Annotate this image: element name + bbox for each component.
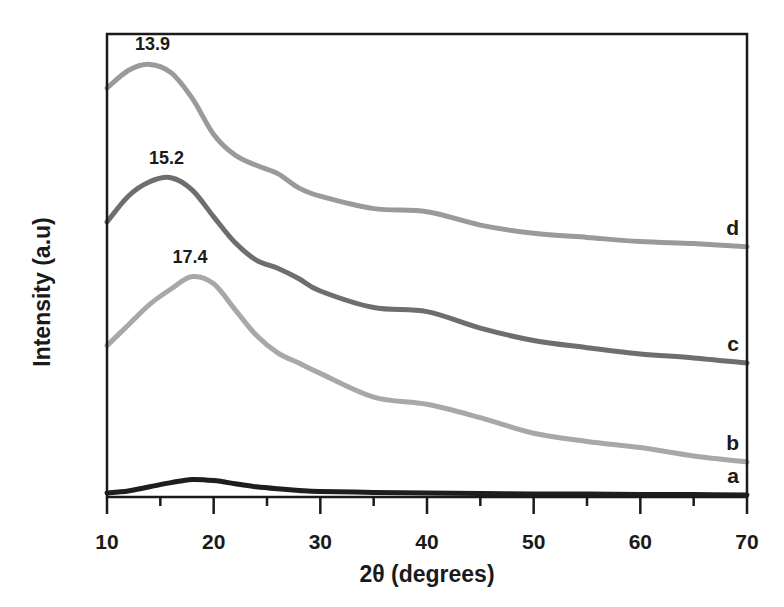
series-labels: abcd — [726, 216, 739, 487]
y-axis-title: Intensity (a.u) — [29, 217, 55, 367]
series-label-b: b — [726, 431, 739, 454]
curve-d — [107, 64, 747, 246]
x-tick-label: 50 — [522, 530, 545, 553]
x-axis-ticks — [107, 497, 747, 514]
curve-b — [107, 276, 747, 462]
series-label-c: c — [727, 332, 739, 355]
xrd-chart: 10203040506070 17.415.213.9 abcd 2θ (deg… — [0, 0, 784, 607]
curve-a — [107, 479, 747, 495]
x-axis-tick-labels: 10203040506070 — [95, 530, 758, 553]
series-label-d: d — [726, 216, 739, 239]
x-tick-label: 10 — [95, 530, 118, 553]
peak-label-c: 15.2 — [149, 148, 184, 168]
peak-label-b: 17.4 — [172, 247, 207, 267]
x-tick-label: 20 — [202, 530, 225, 553]
curve-c — [107, 177, 747, 363]
x-axis-title: 2θ (degrees) — [359, 561, 494, 587]
peak-labels: 17.415.213.9 — [135, 34, 207, 266]
series-label-a: a — [727, 464, 739, 487]
x-tick-label: 70 — [735, 530, 758, 553]
peak-label-d: 13.9 — [135, 34, 170, 54]
x-tick-label: 30 — [309, 530, 332, 553]
series-curves — [107, 64, 747, 495]
x-tick-label: 40 — [415, 530, 438, 553]
x-tick-label: 60 — [629, 530, 652, 553]
